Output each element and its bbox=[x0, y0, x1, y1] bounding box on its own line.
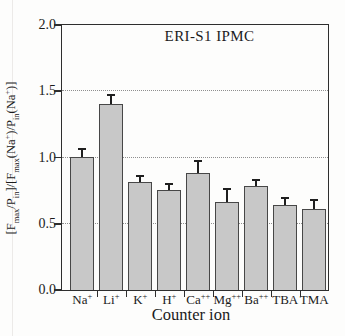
subscript: in bbox=[11, 192, 21, 199]
x-axis-tick bbox=[300, 291, 302, 297]
error-bar bbox=[110, 95, 112, 104]
bar bbox=[70, 157, 95, 290]
error-bar-cap bbox=[252, 179, 261, 181]
x-axis-tick bbox=[271, 291, 273, 297]
bar bbox=[99, 104, 124, 290]
y-axis-label-text: )] bbox=[4, 82, 18, 90]
y-axis-label-text: [F bbox=[4, 223, 18, 234]
y-axis-tick bbox=[54, 223, 62, 225]
error-bar bbox=[81, 149, 83, 157]
error-bar-cap bbox=[310, 199, 319, 201]
x-tick-label: TBA bbox=[272, 292, 298, 308]
gridline bbox=[62, 90, 328, 91]
y-tick-label: 1.5 bbox=[22, 82, 56, 100]
x-axis-title: Counter ion bbox=[152, 305, 230, 325]
y-axis-tick bbox=[54, 289, 62, 291]
error-bar bbox=[313, 199, 315, 208]
x-tick-label: K+ bbox=[133, 292, 147, 308]
y-tick-label: 2.0 bbox=[22, 16, 56, 34]
superscript: + bbox=[2, 135, 12, 140]
y-axis-tick bbox=[54, 24, 62, 26]
bar bbox=[273, 205, 298, 290]
superscript: + bbox=[2, 90, 12, 95]
error-bar-cap bbox=[194, 160, 203, 162]
x-tick-label: Na+ bbox=[72, 292, 92, 308]
y-tick-label: 0.5 bbox=[22, 215, 56, 233]
bar bbox=[186, 173, 211, 290]
x-tick-label: Li+ bbox=[103, 292, 119, 308]
error-bar-cap bbox=[281, 197, 290, 199]
x-axis-tick bbox=[126, 291, 128, 297]
superscript: + bbox=[87, 291, 92, 301]
x-tick-label: Ca++ bbox=[186, 292, 210, 308]
bar bbox=[215, 202, 240, 289]
subscript: in bbox=[11, 113, 21, 120]
x-tick-label: H+ bbox=[162, 292, 176, 308]
y-tick-label: 1.0 bbox=[22, 149, 56, 167]
x-tick-label: Mg++ bbox=[213, 292, 241, 308]
subscript: max bbox=[11, 209, 21, 224]
y-axis-tick bbox=[54, 90, 62, 92]
error-bar-cap bbox=[78, 148, 87, 150]
error-bar-cap bbox=[165, 183, 174, 185]
chart-title: ERI-S1 IPMC bbox=[165, 28, 255, 45]
superscript: + bbox=[172, 291, 177, 301]
x-tick-label: Ba++ bbox=[244, 292, 268, 308]
y-axis-label-text: )/P bbox=[4, 120, 18, 135]
superscript: ++ bbox=[259, 291, 269, 301]
y-axis-label-text: (Na bbox=[4, 139, 18, 158]
x-axis-tick bbox=[97, 291, 99, 297]
y-axis-label: [Fmax/Pin]/[Fmax(Na+)/Pin(Na+)] bbox=[2, 37, 20, 279]
x-tick-label: TMA bbox=[300, 292, 329, 308]
x-axis-tick bbox=[155, 291, 157, 297]
figure-root: [Fmax/Pin]/[Fmax(Na+)/Pin(Na+)] ERI-S1 I… bbox=[0, 0, 345, 336]
bar bbox=[244, 186, 269, 289]
y-axis-label-text: ]/[F bbox=[4, 173, 18, 192]
bar bbox=[157, 190, 182, 289]
x-axis-tick bbox=[213, 291, 215, 297]
bar bbox=[302, 209, 327, 290]
x-axis-tick bbox=[242, 291, 244, 297]
superscript: + bbox=[115, 291, 120, 301]
error-bar bbox=[226, 189, 228, 202]
error-bar-cap bbox=[223, 188, 232, 190]
plot-area: ERI-S1 IPMC bbox=[61, 24, 329, 291]
error-bar-cap bbox=[107, 94, 116, 96]
error-bar-cap bbox=[136, 175, 145, 177]
x-axis-tick bbox=[184, 291, 186, 297]
y-axis-label-text: (Na bbox=[4, 95, 18, 114]
y-axis-label-text: /P bbox=[4, 198, 18, 208]
error-bar bbox=[197, 161, 199, 173]
y-tick-label: 0.0 bbox=[22, 281, 56, 299]
superscript: + bbox=[143, 291, 148, 301]
y-axis-tick bbox=[54, 157, 62, 159]
superscript: ++ bbox=[201, 291, 211, 301]
bar bbox=[128, 182, 153, 289]
subscript: max bbox=[11, 158, 21, 173]
superscript: ++ bbox=[231, 291, 241, 301]
